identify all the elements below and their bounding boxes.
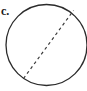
circle-shape [6, 5, 87, 86]
part-label: c. [1, 5, 9, 18]
geometry-diagram [0, 0, 87, 91]
figure-container: c. [0, 0, 87, 91]
dashed-chord-line [24, 11, 74, 79]
